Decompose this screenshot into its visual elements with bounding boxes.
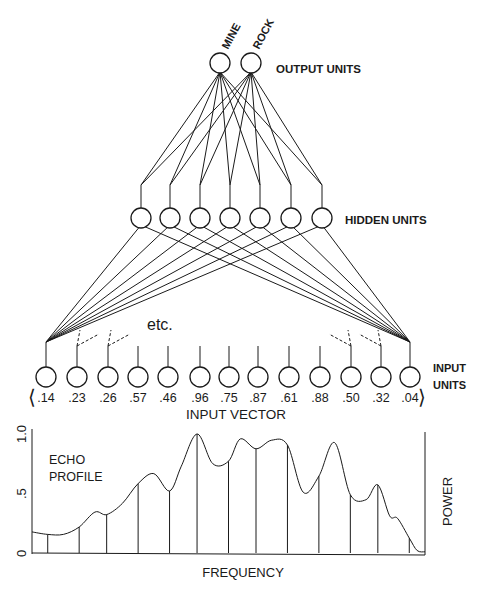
input-unit-circle	[158, 367, 178, 387]
hidden-input-connections	[46, 225, 410, 342]
connection-line	[170, 225, 410, 342]
chart-title-line2: PROFILE	[49, 470, 103, 484]
hidden-unit-circle	[312, 208, 332, 228]
dashed-connection	[329, 334, 351, 346]
dashed-connection	[108, 330, 111, 346]
input-units-label-line1: INPUT	[433, 362, 466, 374]
input-unit-stems	[46, 342, 410, 367]
ytick-0: 0	[14, 550, 29, 557]
hidden-unit-stems	[141, 185, 322, 208]
input-value: .87	[249, 391, 266, 405]
chart-title-line1: ECHO	[49, 453, 85, 467]
dashed-connection	[77, 334, 99, 346]
input-value: .57	[129, 391, 146, 405]
input-unit-circle	[279, 367, 299, 387]
y-axis-label: POWER	[440, 477, 455, 526]
hidden-units	[131, 208, 332, 228]
input-unit-circle	[400, 367, 420, 387]
input-value: .14	[37, 391, 54, 405]
input-unit-circle	[190, 367, 210, 387]
input-value: .23	[68, 391, 85, 405]
hidden-unit-circle	[220, 208, 240, 228]
output-unit-circle	[241, 53, 261, 73]
output-label-rock: ROCK	[250, 17, 276, 51]
etc-label: etc.	[147, 316, 173, 333]
connection-line	[251, 72, 322, 185]
input-unit-circle	[128, 367, 148, 387]
input-vector-label: INPUT VECTOR	[186, 407, 286, 422]
input-value: .32	[372, 391, 389, 405]
dashed-connection	[348, 330, 351, 346]
connection-line	[230, 225, 410, 342]
connection-line	[46, 225, 322, 342]
connection-line	[291, 225, 410, 342]
input-value: .50	[342, 391, 359, 405]
output-units	[210, 53, 261, 73]
hidden-unit-circle	[190, 208, 210, 228]
connection-line	[251, 72, 260, 185]
connection-line	[200, 225, 410, 342]
input-units	[36, 367, 420, 387]
input-value: .46	[159, 391, 176, 405]
input-unit-circle	[36, 367, 56, 387]
connection-line	[230, 72, 251, 185]
connection-line	[251, 72, 291, 185]
connection-line	[141, 72, 251, 185]
hidden-unit-circle	[250, 208, 270, 228]
input-vector-values: .14.23.26.57.46.96.75.87.61.88.50.32.04	[37, 391, 418, 405]
echo-profile-chart: 1.0 .5 0 ECHO PROFILE FREQUENCY POWER	[14, 425, 455, 580]
input-value: .04	[401, 391, 418, 405]
connection-line	[170, 72, 220, 185]
dashed-connection	[77, 330, 80, 346]
connection-line	[46, 225, 141, 342]
sonar-network-figure: .14.23.26.57.46.96.75.87.61.88.50.32.04 …	[0, 0, 478, 604]
dashed-connection	[108, 334, 130, 346]
input-unit-circle	[219, 367, 239, 387]
x-axis	[32, 553, 425, 555]
hidden-unit-circle	[131, 208, 151, 228]
hidden-unit-circle	[160, 208, 180, 228]
input-unit-circle	[371, 367, 391, 387]
input-value: .88	[311, 391, 328, 405]
x-axis-label: FREQUENCY	[202, 565, 284, 580]
etc-dashed-connections	[77, 330, 381, 346]
output-hidden-connections	[141, 72, 322, 185]
input-value: .96	[191, 391, 208, 405]
input-value: .26	[99, 391, 116, 405]
input-unit-circle	[67, 367, 87, 387]
hidden-units-label: HIDDEN UNITS	[345, 214, 427, 226]
input-units-label-line2: UNITS	[433, 379, 466, 391]
output-label-mine: MINE	[219, 21, 243, 51]
connection-line	[46, 225, 230, 342]
input-unit-circle	[248, 367, 268, 387]
dashed-connection	[378, 330, 381, 346]
input-unit-circle	[310, 367, 330, 387]
hidden-unit-circle	[281, 208, 301, 228]
sample-lines	[48, 434, 410, 553]
vector-open-bracket: ⟨	[28, 386, 36, 408]
vector-close-bracket: ⟩	[418, 386, 426, 408]
ytick-0-5: .5	[14, 488, 29, 499]
input-value: .61	[280, 391, 297, 405]
ytick-1-0: 1.0	[14, 425, 29, 443]
input-unit-circle	[98, 367, 118, 387]
dashed-connection	[359, 334, 381, 346]
output-unit-circle	[210, 53, 230, 73]
connection-line	[141, 225, 410, 342]
connection-line	[46, 225, 200, 342]
input-value: .75	[220, 391, 237, 405]
output-units-label: OUTPUT UNITS	[276, 63, 361, 75]
input-unit-circle	[341, 367, 361, 387]
connection-line	[170, 72, 251, 185]
